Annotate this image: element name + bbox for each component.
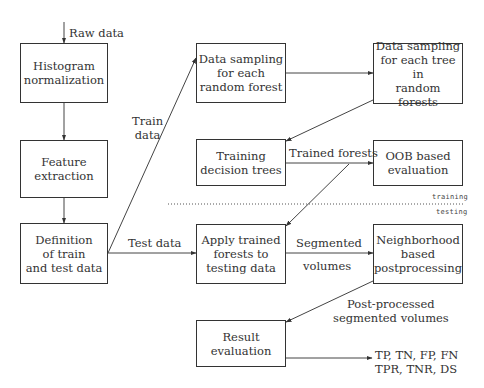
node-oob-evaluation: OOB based evaluation [373,140,463,186]
label-trained-forests: Trained forests [289,146,378,160]
node-neighborhood-postprocessing: Neighborhood based postprocessing [373,224,463,284]
label-raw-data: Raw data [69,26,124,40]
node-apply-forests: Apply trained forests to testing data [196,224,286,284]
node-feature-extraction: Feature extraction [20,140,108,198]
node-sampling-tree: Data sampling for each tree in random fo… [373,43,463,104]
phase-label-training: training [432,193,468,201]
edge-train-data [108,58,196,253]
label-metrics: TP, TN, FP, FN TPR, TNR, DS [375,348,458,376]
phase-label-testing: testing [436,208,468,216]
node-sampling-forest: Data sampling for each random forest [196,43,286,103]
node-result-evaluation: Result evaluation [196,320,286,367]
label-post-processed: Post-processed segmented volumes [333,297,449,325]
node-histogram-normalization: Histogram normalization [20,43,108,103]
label-segmented: Segmented [296,236,362,250]
edge-forests-apply [286,164,349,226]
edge-tree-training [286,100,373,141]
label-volumes: volumes [303,259,351,273]
label-test-data: Test data [128,236,181,250]
label-train-data: Train data [132,114,163,142]
node-definition-train-test: Definition of train and test data [20,223,108,284]
node-training-trees: Training decision trees [196,139,286,186]
